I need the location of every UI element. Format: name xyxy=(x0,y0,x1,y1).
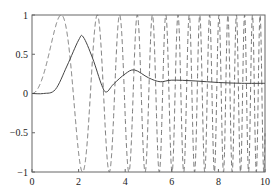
plot-frame xyxy=(32,15,265,172)
x-tick-label: 6 xyxy=(169,176,174,187)
line-chart: 0246810 −1−0.500.51 xyxy=(0,0,276,196)
y-tick-label: −1 xyxy=(17,167,28,178)
y-tick-label: −0.5 xyxy=(10,127,28,138)
x-tick-label: 8 xyxy=(216,176,221,187)
y-tick-label: 1 xyxy=(23,10,28,21)
x-tick-label: 2 xyxy=(76,176,81,187)
y-tick-label: 0.5 xyxy=(16,49,29,60)
x-tick-label: 0 xyxy=(30,176,35,187)
y-tick-label: 0 xyxy=(23,88,28,99)
y-axis-ticks: −1−0.500.51 xyxy=(10,10,35,178)
x-tick-label: 10 xyxy=(260,176,270,187)
x-tick-label: 4 xyxy=(123,176,128,187)
dashed-chirp-series xyxy=(32,15,265,172)
